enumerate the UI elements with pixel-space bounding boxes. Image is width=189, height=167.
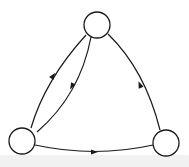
node-top (84, 12, 110, 38)
edge-outer-left (31, 35, 86, 128)
directed-graph (0, 0, 189, 167)
edges (31, 34, 160, 155)
edge-line (108, 34, 160, 130)
nodes (9, 12, 179, 156)
node-bottom-left (9, 128, 35, 154)
edge-inner-left (37, 37, 91, 132)
edge-right (108, 34, 160, 130)
edge-line (31, 35, 86, 128)
arrowhead-icon (91, 149, 98, 154)
edge-bottom (35, 145, 153, 155)
edge-line (37, 37, 91, 132)
node-bottom-right (153, 130, 179, 156)
